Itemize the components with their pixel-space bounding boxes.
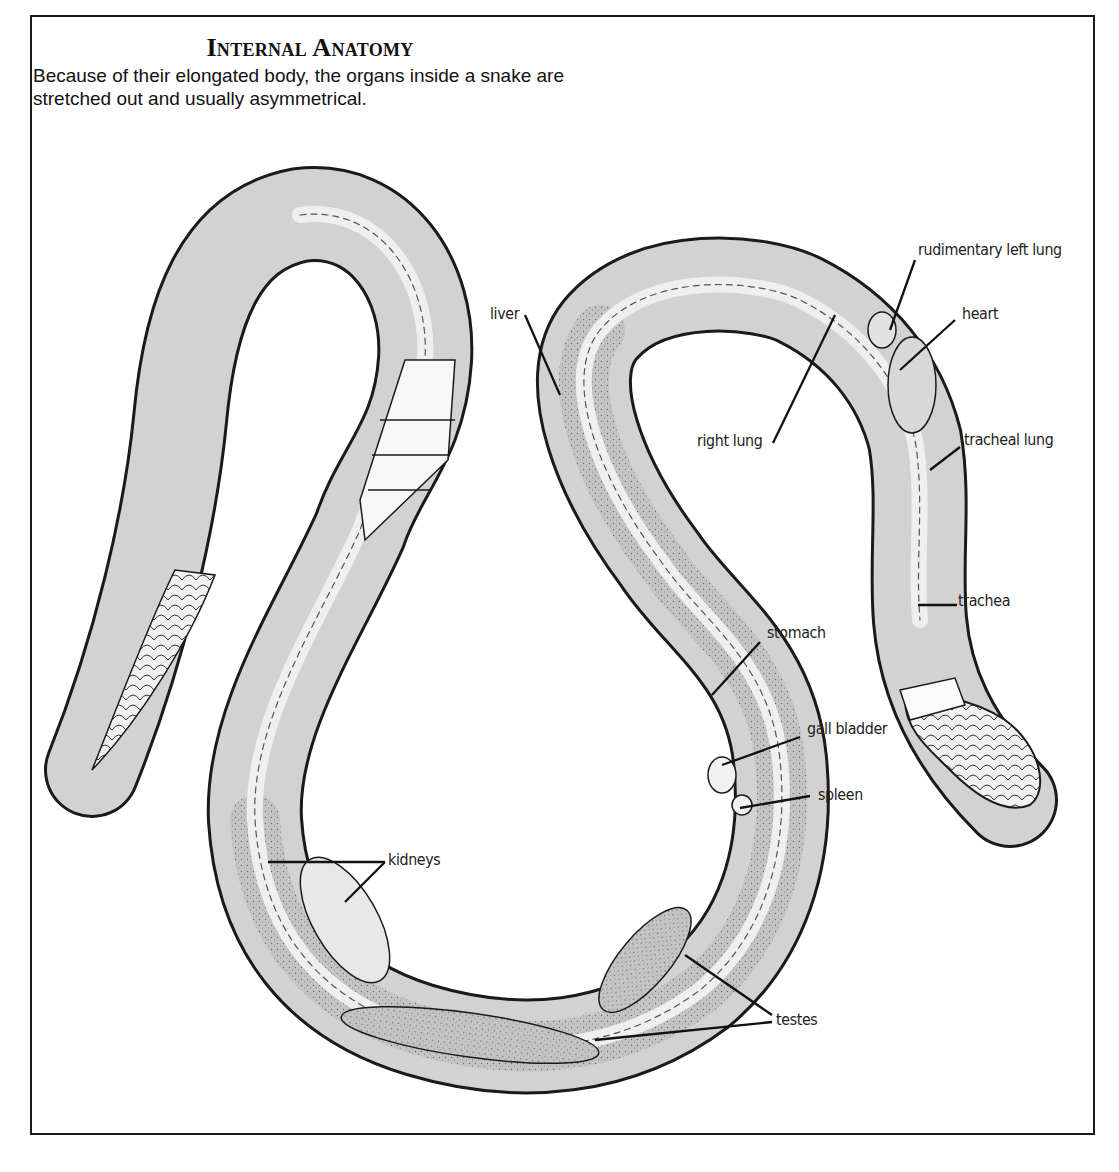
label-testes: testes <box>776 1011 817 1029</box>
label-gall-bladder: gall bladder <box>807 720 887 738</box>
label-heart: heart <box>962 305 998 323</box>
spleen-organ <box>732 795 752 815</box>
figure-subtitle: Because of their elongated body, the org… <box>33 64 593 110</box>
label-right-lung: right lung <box>697 432 762 450</box>
snake-anatomy-illustration <box>0 0 1119 1172</box>
label-kidneys: kidneys <box>388 851 440 869</box>
label-spleen: spleen <box>818 786 863 804</box>
label-rudimentary-left-lung: rudimentary left lung <box>918 241 1062 259</box>
label-stomach: stomach <box>767 624 826 642</box>
label-tracheal-lung: tracheal lung <box>964 431 1053 449</box>
left-lung-organ <box>868 312 896 348</box>
figure-title: Internal Anatomy <box>0 33 620 63</box>
label-trachea: trachea <box>958 592 1010 610</box>
label-liver: liver <box>490 305 519 323</box>
heart-organ <box>888 337 936 433</box>
